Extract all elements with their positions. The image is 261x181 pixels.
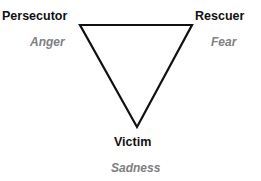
rescuer-label: Rescuer xyxy=(195,9,244,23)
drama-triangle-diagram: Persecutor Anger Rescuer Fear Victim Sad… xyxy=(0,0,261,181)
anger-label: Anger xyxy=(30,35,65,49)
persecutor-label: Persecutor xyxy=(2,9,67,23)
victim-label: Victim xyxy=(114,135,151,149)
triangle-shape xyxy=(0,0,261,181)
sadness-label: Sadness xyxy=(111,161,160,175)
fear-label: Fear xyxy=(211,35,236,49)
